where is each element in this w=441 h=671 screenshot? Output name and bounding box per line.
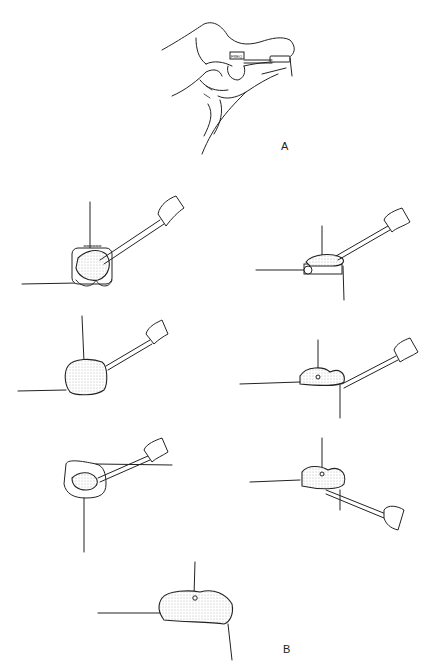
panel-b7 <box>98 562 233 660</box>
figure-label-a: A <box>281 140 288 152</box>
panel-a-hand: FREQ <box>162 23 294 154</box>
panel-b5 <box>64 438 172 552</box>
panel-b1 <box>22 196 184 286</box>
illustration-canvas: FREQ <box>0 0 441 671</box>
panel-b2 <box>256 208 410 300</box>
figure-label-b: B <box>283 643 290 655</box>
freq-tag: FREQ <box>231 54 242 59</box>
panel-b4 <box>240 338 418 418</box>
panel-b6 <box>250 438 404 530</box>
panel-b3 <box>18 316 168 395</box>
